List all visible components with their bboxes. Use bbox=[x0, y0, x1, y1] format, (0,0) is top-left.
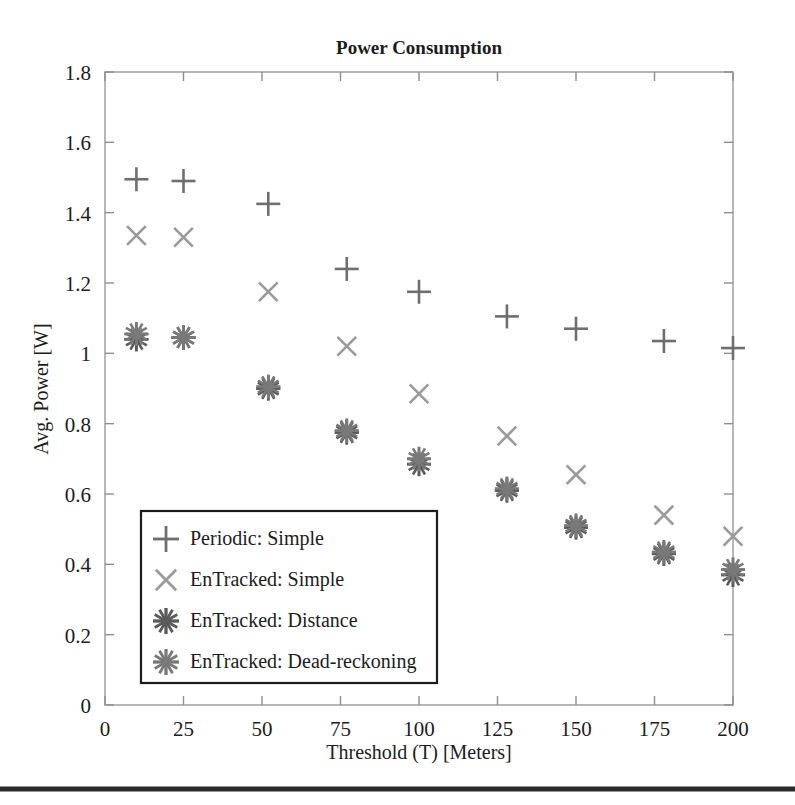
x-tick-label: 150 bbox=[560, 717, 592, 741]
data-point bbox=[335, 419, 359, 443]
y-tick-label: 1.2 bbox=[65, 272, 91, 296]
figure-container: Power Consumption 00.20.40.60.811.21.41.… bbox=[0, 0, 795, 805]
x-tick-label: 200 bbox=[717, 717, 749, 741]
data-point bbox=[721, 558, 745, 582]
data-point bbox=[407, 447, 431, 471]
y-tick-label: 0.2 bbox=[65, 624, 91, 648]
data-point bbox=[172, 326, 196, 350]
chart-title: Power Consumption bbox=[336, 37, 502, 58]
x-tick-label: 25 bbox=[173, 717, 194, 741]
data-point bbox=[407, 280, 431, 304]
data-point bbox=[564, 317, 588, 341]
y-axis-label: Avg. Power [W] bbox=[30, 323, 53, 454]
y-tick-label: 0.4 bbox=[65, 553, 92, 577]
y-tick-label: 0.8 bbox=[65, 413, 91, 437]
y-tick-label: 0 bbox=[81, 694, 92, 718]
legend-item-label: EnTracked: Simple bbox=[190, 568, 344, 591]
legend-item-label: EnTracked: Distance bbox=[190, 609, 358, 631]
data-point bbox=[655, 506, 674, 525]
x-axis-tick-labels: 0255075100125150175200 bbox=[100, 717, 749, 741]
data-point bbox=[256, 192, 280, 216]
data-point bbox=[721, 336, 745, 360]
y-tick-label: 1.4 bbox=[65, 202, 92, 226]
data-point bbox=[127, 226, 146, 245]
legend-item-4[interactable]: EnTracked: Dead-reckoning bbox=[153, 649, 416, 675]
data-point bbox=[259, 282, 278, 301]
x-tick-label: 125 bbox=[482, 717, 514, 741]
data-point bbox=[495, 304, 519, 328]
legend-item-label: EnTracked: Dead-reckoning bbox=[190, 650, 416, 673]
legend-item-label: Periodic: Simple bbox=[190, 527, 324, 550]
y-tick-label: 1.6 bbox=[65, 131, 91, 155]
data-point bbox=[652, 329, 676, 353]
data-point bbox=[172, 169, 196, 193]
data-point bbox=[495, 477, 519, 501]
x-axis-label: Threshold (T) [Meters] bbox=[326, 741, 512, 764]
data-point bbox=[335, 257, 359, 281]
series-1 bbox=[124, 167, 745, 360]
data-point bbox=[256, 375, 280, 399]
x-tick-label: 50 bbox=[252, 717, 273, 741]
data-point bbox=[124, 322, 148, 346]
y-tick-label: 1 bbox=[81, 342, 92, 366]
data-point bbox=[652, 540, 676, 564]
data-point bbox=[174, 228, 193, 247]
data-point bbox=[124, 167, 148, 191]
data-point bbox=[498, 427, 517, 446]
x-tick-label: 100 bbox=[403, 717, 435, 741]
x-tick-label: 175 bbox=[639, 717, 671, 741]
power-consumption-chart: Power Consumption 00.20.40.60.811.21.41.… bbox=[0, 0, 795, 805]
y-tick-label: 0.6 bbox=[65, 483, 91, 507]
chart-legend: Periodic: SimpleEnTracked: SimpleEnTrack… bbox=[141, 511, 437, 683]
data-point bbox=[564, 514, 588, 538]
data-point bbox=[567, 465, 586, 484]
x-tick-label: 75 bbox=[330, 717, 351, 741]
data-point bbox=[337, 337, 356, 356]
series-2 bbox=[127, 226, 742, 545]
x-tick-label: 0 bbox=[100, 717, 111, 741]
y-axis-tick-labels: 00.20.40.60.811.21.41.61.8 bbox=[65, 61, 92, 718]
data-point bbox=[410, 384, 429, 403]
y-tick-label: 1.8 bbox=[65, 61, 91, 85]
